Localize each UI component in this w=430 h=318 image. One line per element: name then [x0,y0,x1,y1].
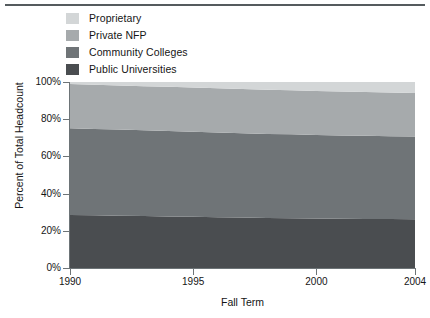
legend-item-label: Private NFP [89,30,147,41]
legend-item-proprietary[interactable]: Proprietary [66,11,306,26]
y-axis-tick-labels: 100%80%60%40%20%0% [20,0,61,318]
header-divider [5,4,425,6]
legend-swatch-icon [66,64,79,75]
y-axis-tick [63,82,69,83]
legend-item-public-universities[interactable]: Public Universities [66,62,306,77]
x-axis-tick [316,269,317,275]
y-axis-tick-label: 20% [23,226,61,236]
y-axis-tick [63,231,69,232]
area-band-community-colleges [70,128,415,219]
y-axis-tick [63,156,69,157]
y-axis-tick [63,119,69,120]
y-axis-tick-label: 80% [23,114,61,124]
plot-area [70,82,415,268]
x-axis-tick [415,269,416,275]
x-axis-tick [70,269,71,275]
legend-item-label: Proprietary [89,13,141,24]
x-axis-tick-label: 2000 [293,277,339,287]
x-axis-tick-label: 1995 [170,277,216,287]
x-axis-tick-label: 2004 [392,277,430,287]
legend-swatch-icon [66,30,79,41]
chart-legend: Proprietary Private NFP Community Colleg… [66,11,306,79]
x-axis-tick-label: 1990 [47,277,93,287]
y-axis-tick [63,268,69,269]
legend-item-private-nfp[interactable]: Private NFP [66,28,306,43]
legend-item-label: Public Universities [89,64,177,75]
y-axis-tick-label: 60% [23,151,61,161]
stacked-area-series [70,82,415,268]
area-band-public-universities [70,215,415,268]
y-axis-tick-label: 0% [23,263,61,273]
x-axis-title: Fall Term [70,297,415,308]
x-axis-line [69,268,416,269]
x-axis-tick [193,269,194,275]
legend-item-label: Community Colleges [89,47,188,58]
y-axis-title: Percent of Total Headcount [14,71,25,221]
legend-swatch-icon [66,47,79,58]
y-axis-tick [63,194,69,195]
legend-swatch-icon [66,13,79,24]
chart-figure: Proprietary Private NFP Community Colleg… [0,0,430,318]
legend-item-community-colleges[interactable]: Community Colleges [66,45,306,60]
y-axis-tick-label: 100% [23,77,61,87]
y-axis-tick-label: 40% [23,189,61,199]
y-axis-line [69,82,70,269]
